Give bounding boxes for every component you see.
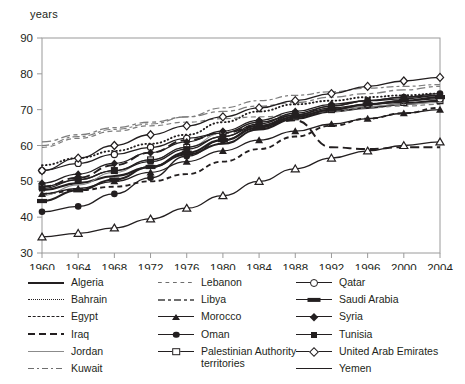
series-marker bbox=[75, 177, 81, 183]
legend-line-sample bbox=[28, 316, 64, 317]
series-marker bbox=[147, 174, 154, 181]
series-marker bbox=[364, 82, 371, 90]
legend-item: Libya bbox=[158, 293, 303, 310]
svg-text:1968: 1968 bbox=[102, 262, 128, 270]
svg-text:1996: 1996 bbox=[355, 262, 381, 270]
legend-label: Lebanon bbox=[201, 276, 242, 288]
legend-label: Oman bbox=[201, 328, 230, 340]
legend-line-sample bbox=[158, 282, 194, 283]
legend-label: Iraq bbox=[71, 328, 89, 340]
legend-label: Jordan bbox=[71, 345, 103, 357]
series-marker bbox=[365, 98, 371, 104]
open-triangle-icon bbox=[314, 369, 322, 384]
legend-marker-sample bbox=[296, 329, 332, 341]
filled-diamond-icon bbox=[310, 313, 318, 321]
filled-circle-icon bbox=[173, 331, 180, 338]
legend-item: Iraq bbox=[28, 328, 158, 345]
legend-item: Bahrain bbox=[28, 293, 158, 310]
legend-item: Jordan bbox=[28, 345, 158, 362]
legend-line-sample bbox=[28, 368, 64, 369]
series-marker bbox=[37, 199, 47, 203]
chart-plot-area: 3040506070809019601964196819721976198019… bbox=[0, 0, 465, 270]
legend-label: Algeria bbox=[71, 276, 104, 288]
legend-label: Kuwait bbox=[71, 362, 103, 374]
series-marker bbox=[111, 191, 118, 198]
filled-square-icon bbox=[311, 332, 317, 338]
series-line bbox=[42, 108, 440, 194]
legend-item: Oman bbox=[158, 328, 303, 345]
legend-label: Libya bbox=[201, 293, 226, 305]
series-marker bbox=[183, 122, 190, 130]
legend-pattern-sample bbox=[158, 277, 194, 289]
svg-text:2000: 2000 bbox=[391, 262, 417, 270]
legend-item: Palestinian Authority territories bbox=[158, 345, 303, 375]
legend-pattern-sample bbox=[28, 311, 64, 323]
legend-marker-sample bbox=[296, 311, 332, 323]
series-marker bbox=[292, 110, 298, 116]
legend-marker-sample bbox=[296, 346, 332, 358]
legend-item: Egypt bbox=[28, 310, 158, 327]
legend-label: Syria bbox=[339, 310, 363, 322]
legend-line-sample bbox=[28, 351, 64, 352]
series-marker bbox=[73, 188, 83, 192]
series-marker bbox=[256, 121, 262, 127]
svg-text:2004: 2004 bbox=[427, 262, 453, 270]
legend-label: Yemen bbox=[339, 362, 371, 374]
series-marker bbox=[39, 186, 45, 192]
chart-legend: AlgeriaBahrainEgyptIraqJordanKuwait Leba… bbox=[0, 276, 465, 384]
legend-marker-sample bbox=[296, 363, 332, 375]
svg-text:1964: 1964 bbox=[65, 262, 91, 270]
open-circle-icon bbox=[310, 279, 318, 287]
series-marker bbox=[75, 203, 82, 210]
series-marker bbox=[111, 168, 117, 174]
series-marker bbox=[400, 77, 407, 85]
line-chart: 3040506070809019601964196819721976198019… bbox=[0, 0, 465, 270]
legend-marker-sample bbox=[158, 311, 194, 323]
legend-label: Saudi Arabia bbox=[339, 293, 399, 305]
svg-text:1980: 1980 bbox=[210, 262, 236, 270]
svg-text:80: 80 bbox=[20, 68, 33, 80]
series-line bbox=[42, 101, 440, 187]
legend-marker-sample bbox=[296, 294, 332, 306]
legend-marker-sample bbox=[158, 329, 194, 341]
series-marker bbox=[401, 96, 407, 102]
series-marker bbox=[148, 159, 154, 165]
series-marker bbox=[111, 142, 118, 150]
series-marker bbox=[219, 113, 226, 121]
series-marker bbox=[328, 90, 335, 98]
series-marker bbox=[111, 151, 117, 157]
series-marker bbox=[38, 167, 45, 175]
svg-text:70: 70 bbox=[20, 104, 33, 116]
legend-label: Egypt bbox=[71, 310, 98, 322]
legend-pattern-sample bbox=[28, 277, 64, 289]
legend-label: Tunisia bbox=[339, 328, 372, 340]
legend-item: Morocco bbox=[158, 310, 303, 327]
svg-text:30: 30 bbox=[20, 247, 33, 259]
legend-column-2: LebanonLibyaMoroccoOmanPalestinian Autho… bbox=[158, 276, 303, 375]
legend-item: Algeria bbox=[28, 276, 158, 293]
series-marker bbox=[220, 134, 226, 140]
legend-item: Syria bbox=[296, 310, 464, 327]
legend-line-sample bbox=[28, 299, 64, 300]
legend-column-1: AlgeriaBahrainEgyptIraqJordanKuwait bbox=[28, 276, 158, 379]
legend-line-sample bbox=[28, 282, 64, 284]
svg-text:1972: 1972 bbox=[138, 262, 164, 270]
legend-pattern-sample bbox=[158, 294, 194, 306]
legend-pattern-sample bbox=[28, 294, 64, 306]
legend-item: Qatar bbox=[296, 276, 464, 293]
legend-marker-sample bbox=[158, 346, 194, 358]
svg-text:60: 60 bbox=[20, 140, 33, 152]
legend-item: Lebanon bbox=[158, 276, 303, 293]
series-marker bbox=[146, 165, 156, 169]
legend-label: Qatar bbox=[339, 276, 365, 288]
svg-text:90: 90 bbox=[20, 32, 33, 44]
legend-line-sample bbox=[158, 299, 194, 301]
legend-item: United Arab Emirates bbox=[296, 345, 464, 362]
legend-marker-sample bbox=[296, 277, 332, 289]
svg-text:40: 40 bbox=[20, 211, 33, 223]
filled-triangle-icon bbox=[172, 314, 180, 320]
series-marker bbox=[437, 92, 443, 98]
series-marker bbox=[436, 73, 443, 81]
legend-line-sample bbox=[28, 333, 64, 335]
bar-icon bbox=[308, 298, 321, 302]
